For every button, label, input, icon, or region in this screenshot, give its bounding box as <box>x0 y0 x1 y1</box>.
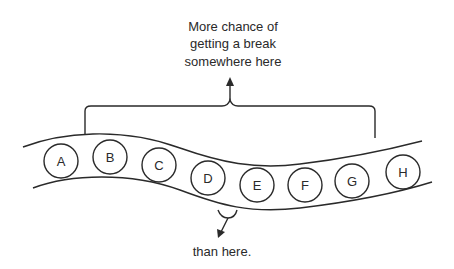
up-arrow-icon <box>226 77 234 100</box>
top-annotation: More chance of getting a break somewhere… <box>185 19 282 69</box>
bead-g: G <box>335 164 369 198</box>
bead-label-a: A <box>57 154 66 169</box>
bead-label-f: F <box>301 178 309 193</box>
bead-label-d: D <box>203 171 212 186</box>
bottom-annotation: than here. <box>193 244 252 259</box>
bead-d: D <box>191 161 225 195</box>
bead-label-h: H <box>398 165 407 180</box>
down-arrow-icon <box>217 210 237 238</box>
strand-top-edge <box>23 134 422 166</box>
bead-h: H <box>386 155 420 189</box>
bead-a: A <box>44 144 78 178</box>
top-annotation-line-3: somewhere here <box>185 54 282 69</box>
bead-b: B <box>93 140 127 174</box>
bead-label-b: B <box>106 150 115 165</box>
bead-label-e: E <box>253 178 262 193</box>
bead-label-c: C <box>154 158 163 173</box>
chromosome-break-diagram: More chance of getting a break somewhere… <box>0 0 454 269</box>
bead-e: E <box>240 168 274 202</box>
bead-f: F <box>288 168 322 202</box>
strand-bottom-edge <box>33 177 432 210</box>
bead-c: C <box>142 148 176 182</box>
bead-label-g: G <box>347 174 357 189</box>
top-annotation-line-2: getting a break <box>190 36 277 51</box>
top-annotation-line-1: More chance of <box>188 19 278 34</box>
bracket <box>85 100 375 138</box>
